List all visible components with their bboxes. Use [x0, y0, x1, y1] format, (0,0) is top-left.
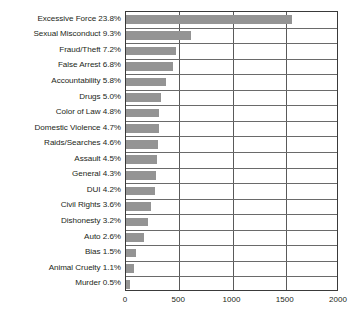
category-label: Murder 0.5% [0, 278, 121, 287]
bar [126, 280, 130, 289]
x-axis-tick-label: 2000 [329, 295, 347, 305]
bar [126, 233, 144, 242]
bar [126, 171, 156, 180]
bar [126, 78, 166, 87]
category-label: DUI 4.2% [0, 185, 121, 194]
plot-area [125, 11, 338, 291]
category-label: Civil Rights 3.6% [0, 200, 121, 209]
category-label: Bias 1.5% [0, 247, 121, 256]
category-label: Auto 2.6% [0, 232, 121, 241]
x-axis-tick-label: 1500 [276, 295, 294, 305]
bar [126, 264, 134, 273]
category-label: Domestic Violence 4.7% [0, 123, 121, 132]
bar [126, 218, 148, 227]
bar [126, 109, 159, 118]
bar [126, 31, 191, 40]
value-axis-labels: 0500100015002000 [0, 295, 359, 311]
bar [126, 202, 151, 211]
category-label: Animal Cruelty 1.1% [0, 263, 121, 272]
category-label: Dishonesty 3.2% [0, 216, 121, 225]
bar [126, 155, 157, 164]
category-label: Sexual Misconduct 9.3% [0, 29, 121, 38]
bar-series [126, 12, 337, 290]
category-label: Color of Law 4.8% [0, 107, 121, 116]
category-label: Excessive Force 23.8% [0, 14, 121, 23]
category-label: Drugs 5.0% [0, 92, 121, 101]
bar [126, 187, 155, 196]
bar [126, 62, 173, 71]
x-axis-tick-label: 500 [172, 295, 185, 305]
category-label: Accountability 5.8% [0, 76, 121, 85]
bar-chart: Excessive Force 23.8%Sexual Misconduct 9… [0, 0, 359, 324]
bar [126, 140, 158, 149]
x-axis-tick-label: 1000 [223, 295, 241, 305]
bar [126, 93, 161, 102]
category-label: False Arrest 6.8% [0, 60, 121, 69]
x-axis-tick-label: 0 [123, 295, 127, 305]
bar [126, 15, 292, 24]
category-label: Raids/Searches 4.6% [0, 138, 121, 147]
bar [126, 47, 176, 56]
bar [126, 249, 136, 258]
category-label: Fraud/Theft 7.2% [0, 45, 121, 54]
category-label: General 4.3% [0, 169, 121, 178]
category-label: Assault 4.5% [0, 154, 121, 163]
bar [126, 124, 159, 133]
category-axis-labels: Excessive Force 23.8%Sexual Misconduct 9… [0, 11, 121, 291]
